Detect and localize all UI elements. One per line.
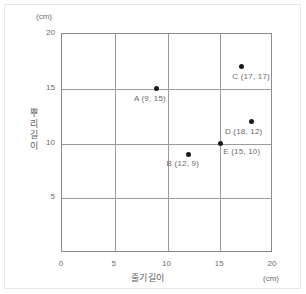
x-axis-title: 줄기길이 — [131, 271, 164, 284]
y-tick-label-20: 20 — [33, 28, 55, 37]
data-point-a — [154, 86, 159, 91]
scatter-plot-figure: (cm) 뿌리길이 05101520 5101520 A (9, 15)B (1… — [0, 0, 306, 294]
y-axis-unit-label: (cm) — [36, 12, 52, 21]
y-axis-title-char: 리 — [28, 119, 39, 130]
gridline-horizontal-15 — [62, 89, 271, 90]
x-tick-label-10: 10 — [155, 259, 179, 268]
gridline-vertical-10 — [168, 34, 169, 251]
x-tick-label-0: 0 — [49, 259, 73, 268]
y-tick-label-5: 5 — [33, 192, 55, 201]
data-point-label-e: E (15, 10) — [223, 147, 260, 156]
x-tick-label-5: 5 — [102, 259, 126, 268]
data-point-label-c: C (17, 17) — [232, 72, 270, 81]
data-point-label-d: D (18, 12) — [225, 127, 263, 136]
x-tick-label-15: 15 — [207, 259, 231, 268]
data-point-d — [249, 119, 254, 124]
data-point-b — [186, 152, 191, 157]
gridline-horizontal-5 — [62, 198, 271, 199]
data-point-c — [239, 64, 244, 69]
data-point-label-b: B (12, 9) — [167, 159, 199, 168]
plot-area — [61, 33, 272, 252]
x-tick-label-20: 20 — [260, 259, 284, 268]
y-tick-label-10: 10 — [33, 138, 55, 147]
data-point-label-a: A (9, 15) — [134, 94, 166, 103]
y-axis-title-char: 뿌 — [28, 108, 39, 119]
gridline-vertical-5 — [115, 34, 116, 251]
gridline-horizontal-10 — [62, 144, 271, 145]
x-axis-unit-label: (cm) — [263, 274, 279, 283]
data-point-e — [218, 141, 223, 146]
y-tick-label-15: 15 — [33, 83, 55, 92]
